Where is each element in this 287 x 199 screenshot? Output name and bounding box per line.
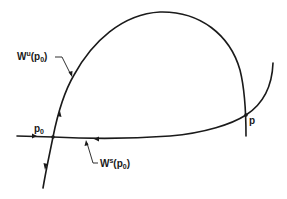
p0-label: p0: [34, 123, 44, 135]
stable-leader-line: [87, 143, 98, 163]
leader-arrow-icon: [85, 140, 89, 146]
unstable-manifold-curve: [43, 12, 246, 188]
p0-point: [51, 135, 55, 139]
arrow-right-icon: [32, 134, 37, 139]
leader-arrow-icon: [69, 71, 73, 77]
stable-manifold-label: Ws(p0): [100, 157, 130, 170]
homoclinic-diagram: Wu(p0) Ws(p0) p0 p: [0, 0, 287, 199]
p-point: [244, 113, 248, 117]
unstable-manifold-label: Wu(p0): [17, 50, 47, 63]
p-label: p: [249, 115, 255, 126]
arrow-left-icon: [94, 137, 99, 142]
unstable-leader-line: [55, 57, 71, 75]
